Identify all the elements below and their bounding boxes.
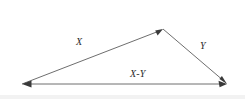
vector-x-label: X [76, 37, 82, 47]
vector-y-label: Y [200, 41, 206, 51]
vector-x-minus-y-left-arrowhead-icon [22, 81, 32, 88]
bottom-edge-band [0, 95, 245, 99]
vector-x-arrowhead-icon [155, 29, 163, 36]
vector-x-minus-y-right-arrowhead-icon [219, 81, 228, 87]
vector-y-group [163, 29, 227, 84]
vector-x-minus-y-group [22, 81, 227, 88]
vector-triangle-diagram [0, 0, 245, 99]
vector-x-minus-y-label: X-Y [130, 69, 146, 79]
vector-y-line [163, 29, 225, 82]
vector-triangle-figure: X Y X-Y [0, 0, 245, 99]
